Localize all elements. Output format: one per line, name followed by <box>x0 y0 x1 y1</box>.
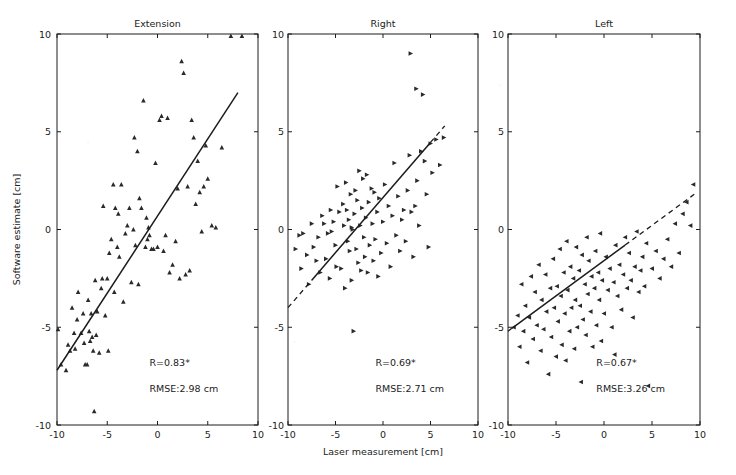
rmse-annotation: RMSE:2.98 cm <box>149 383 218 394</box>
scatter-figure: -10-505101050-5-10ExtensionR=0.83*RMSE:2… <box>0 0 736 475</box>
panel-left: -10-505101050-5-10LeftR=0.67*RMSE:3.26 c… <box>488 18 706 440</box>
y-tick-label: 0 <box>45 224 51 235</box>
x-tick-label: 10 <box>252 429 264 440</box>
y-tick-label: 5 <box>498 126 504 137</box>
y-tick-label: -5 <box>495 322 504 333</box>
y-tick-label: -10 <box>35 420 51 431</box>
scatter-points <box>56 33 245 413</box>
x-tick-label: -10 <box>280 429 296 440</box>
x-tick-label: -5 <box>103 429 112 440</box>
x-axis-label: Laser measurement [cm] <box>323 446 443 457</box>
y-tick-label: 0 <box>498 224 504 235</box>
rmse-annotation: RMSE:2.71 cm <box>375 383 444 394</box>
x-tick-label: 5 <box>427 429 433 440</box>
panel-title: Left <box>595 18 613 29</box>
regression-line-dashed-low <box>508 328 512 331</box>
r-value-annotation: R=0.67* <box>596 357 637 368</box>
y-tick-label: 5 <box>278 126 284 137</box>
y-tick-label: 0 <box>278 224 284 235</box>
x-tick-label: 5 <box>649 429 655 440</box>
y-tick-label: -10 <box>488 420 504 431</box>
x-tick-label: -10 <box>500 429 516 440</box>
y-tick-label: 10 <box>492 29 504 40</box>
regression-line-dashed-high <box>625 194 694 245</box>
y-tick-label: -5 <box>42 322 51 333</box>
y-tick-label: -10 <box>268 420 284 431</box>
x-tick-label: 5 <box>205 429 211 440</box>
figure-container: -10-505101050-5-10ExtensionR=0.83*RMSE:2… <box>0 0 736 475</box>
panel-right: -10-505101050-5-10RightR=0.69*RMSE:2.71 … <box>268 18 484 440</box>
y-tick-label: 10 <box>39 29 51 40</box>
x-tick-label: -5 <box>331 429 340 440</box>
regression-line <box>512 245 625 328</box>
x-tick-label: -5 <box>551 429 560 440</box>
x-tick-label: 10 <box>472 429 484 440</box>
x-tick-label: 0 <box>154 429 160 440</box>
x-tick-label: 10 <box>694 429 706 440</box>
panel-title: Extension <box>134 18 181 29</box>
y-tick-label: -5 <box>275 322 284 333</box>
regression-line <box>57 93 238 371</box>
r-value-annotation: R=0.83* <box>149 357 190 368</box>
scatter-points <box>294 51 447 333</box>
x-tick-label: 0 <box>380 429 386 440</box>
regression-line-dashed-low <box>288 280 312 308</box>
x-tick-label: 0 <box>601 429 607 440</box>
r-value-annotation: R=0.69* <box>375 357 416 368</box>
rmse-annotation: RMSE:3.26 cm <box>596 383 665 394</box>
panel-title: Right <box>370 18 395 29</box>
x-tick-label: -10 <box>49 429 65 440</box>
y-axis-label: Software estimate [cm] <box>11 174 22 286</box>
y-tick-label: 10 <box>272 29 284 40</box>
y-tick-label: 5 <box>45 126 51 137</box>
panel-extension: -10-505101050-5-10ExtensionR=0.83*RMSE:2… <box>35 18 264 440</box>
